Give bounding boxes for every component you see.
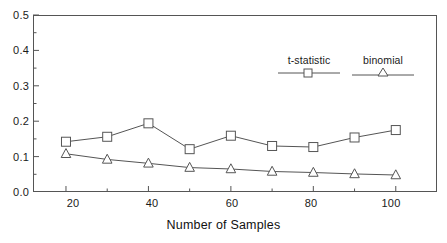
series-binomial <box>61 149 400 179</box>
series-t-statistic <box>61 119 400 154</box>
chart-plot-area <box>0 0 447 243</box>
chart-canvas: 0.5 0.4 0.3 0.2 0.1 0.0 20 40 60 80 100 … <box>0 0 447 243</box>
axis-ticks <box>33 15 396 192</box>
